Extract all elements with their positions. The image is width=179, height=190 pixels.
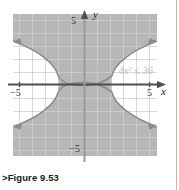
y-axis-label: y [92, 8, 98, 20]
inequality-label: 9y² − 4x² ≤ 36 [93, 65, 154, 76]
page-column-rule [176, 0, 177, 190]
y-tick-label-minus5: −5 [69, 143, 80, 154]
y-tick-label-5: 5 [71, 15, 76, 26]
x-tick-label-minus5: −5 [10, 87, 21, 98]
coordinate-plot: y x 5 −5 −5 5 9y² − 4x² ≤ 36 [0, 0, 170, 168]
figure-container: y x 5 −5 −5 5 9y² − 4x² ≤ 36 >Figure 9.5… [0, 0, 179, 190]
x-axis-label: x [160, 85, 166, 97]
plot-svg: y x 5 −5 −5 5 9y² − 4x² ≤ 36 [0, 0, 170, 168]
x-tick-label-5: 5 [147, 87, 152, 98]
figure-caption: >Figure 9.53 [2, 172, 59, 183]
caption-text: Figure 9.53 [8, 172, 59, 183]
